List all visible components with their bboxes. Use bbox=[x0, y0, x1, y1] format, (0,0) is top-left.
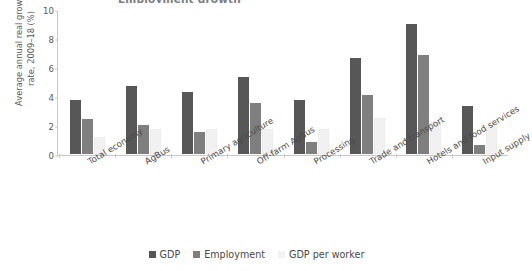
square-swatch-medium bbox=[193, 251, 200, 258]
bar bbox=[294, 100, 305, 154]
bar-group bbox=[171, 11, 227, 154]
y-axis-tick-label: 2 bbox=[49, 122, 54, 132]
chart-legend: GDPEmploymentGDP per worker bbox=[0, 249, 513, 260]
y-axis-tick-label: 4 bbox=[49, 93, 54, 103]
bar bbox=[306, 142, 317, 154]
bar bbox=[362, 95, 373, 154]
legend-label: Employment bbox=[204, 249, 265, 260]
y-axis-title: Average annual real growth rate, 2009–18… bbox=[14, 0, 37, 123]
y-axis-tick-mark bbox=[55, 127, 58, 128]
x-axis-category-labels: Total economyAgBusPrimary agricultureOff… bbox=[57, 158, 508, 238]
square-swatch-dark bbox=[149, 251, 156, 258]
legend-item[interactable]: GDP per worker bbox=[278, 249, 364, 260]
y-axis-tick-mark bbox=[55, 156, 58, 157]
y-axis-tick-mark bbox=[55, 40, 58, 41]
bar-group bbox=[340, 11, 396, 154]
legend-item[interactable]: GDP bbox=[149, 249, 181, 260]
legend-label: GDP bbox=[160, 249, 181, 260]
legend-label: GDP per worker bbox=[289, 249, 364, 260]
y-axis-tick-mark bbox=[55, 69, 58, 70]
bar bbox=[474, 145, 485, 154]
y-axis-tick-label: 6 bbox=[49, 64, 54, 74]
bar bbox=[82, 119, 93, 154]
square-swatch-light bbox=[278, 251, 285, 258]
chart-title-clipped: Employment growth bbox=[118, 0, 378, 3]
y-axis-tick-label: 10 bbox=[43, 6, 54, 16]
bar-group bbox=[59, 11, 115, 154]
bar bbox=[182, 92, 193, 154]
y-axis-title-line-1: Average annual real growth bbox=[14, 0, 26, 123]
bar bbox=[418, 55, 429, 154]
y-axis-tick-mark bbox=[55, 98, 58, 99]
legend-item[interactable]: Employment bbox=[193, 249, 265, 260]
y-axis-title-line-2: rate, 2009–18 (%) bbox=[25, 0, 37, 123]
bar bbox=[194, 132, 205, 154]
bar bbox=[70, 100, 81, 154]
y-axis-tick-label: 0 bbox=[49, 151, 54, 161]
y-axis-tick-label: 8 bbox=[49, 35, 54, 45]
y-axis-tick-mark bbox=[55, 11, 58, 12]
